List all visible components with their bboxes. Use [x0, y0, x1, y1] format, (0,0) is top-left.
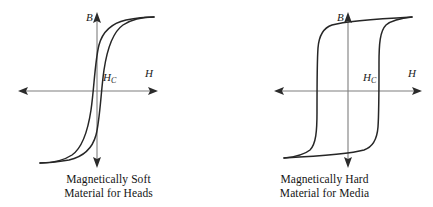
- caption-hard-line1: Magnetically Hard: [216, 173, 433, 187]
- b-axis-hard: [344, 12, 352, 168]
- panel-magnetically-soft: B H HC Magnetically Soft Material for He…: [0, 0, 217, 207]
- hysteresis-figure: B H HC Magnetically Soft Material for He…: [0, 0, 433, 207]
- caption-hard-line2: Material for Media: [216, 187, 433, 201]
- h-axis-soft: [18, 87, 158, 95]
- caption-hard: Magnetically Hard Material for Media: [216, 173, 433, 200]
- coercivity-subscript-soft: C: [111, 76, 116, 85]
- coercivity-label-hard: HC: [363, 72, 376, 85]
- b-axis-soft: [93, 12, 101, 168]
- coercivity-label-soft: HC: [103, 72, 116, 85]
- caption-soft-line2: Material for Heads: [0, 187, 217, 201]
- b-axis-label-soft: B: [86, 12, 93, 23]
- h-axis-label-soft: H: [145, 68, 153, 79]
- caption-soft-line1: Magnetically Soft: [0, 173, 217, 187]
- coercivity-symbol-soft: H: [103, 71, 111, 83]
- caption-soft: Magnetically Soft Material for Heads: [0, 173, 217, 200]
- b-axis-label-hard: B: [337, 12, 344, 23]
- panel-magnetically-hard: B H HC Magnetically Hard Material for Me…: [216, 0, 433, 207]
- coercivity-symbol-hard: H: [363, 71, 371, 83]
- hard-loop-plot: [216, 0, 433, 180]
- coercivity-subscript-hard: C: [371, 76, 376, 85]
- h-axis-label-hard: H: [408, 68, 416, 79]
- soft-loop-plot: [0, 0, 217, 180]
